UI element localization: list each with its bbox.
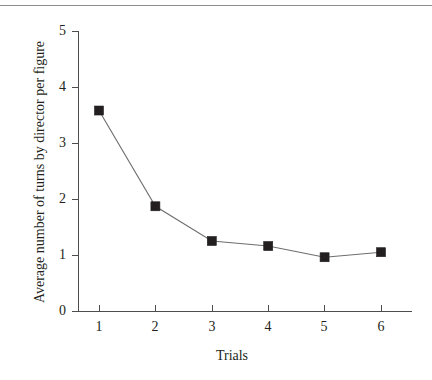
data-series-layer [0,0,432,380]
series-markers [95,106,386,262]
data-point-trial-5 [320,253,329,262]
figure-panel: 0 1 2 3 4 5 1 2 3 4 5 [0,0,432,380]
data-point-trial-4 [264,242,273,251]
data-point-trial-1 [95,106,104,115]
x-axis-title: Trials [0,348,432,364]
series-line [99,111,381,258]
data-point-trial-2 [151,202,160,211]
plot-area: 0 1 2 3 4 5 1 2 3 4 5 [0,0,432,380]
x-axis-title-text: Trials [216,348,248,364]
y-axis-title: Average number of turns by director per … [32,27,52,317]
data-point-trial-3 [207,237,216,246]
data-point-trial-6 [377,248,386,257]
